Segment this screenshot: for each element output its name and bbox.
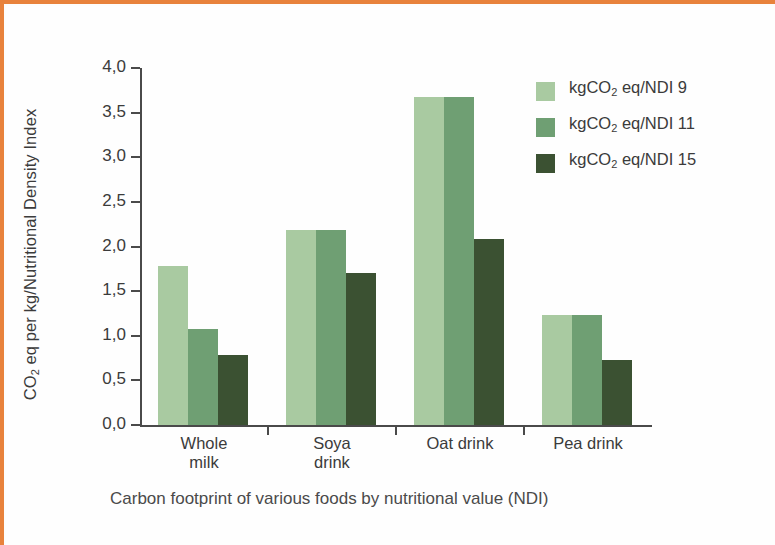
- y-axis-tick-label: 0,5: [78, 369, 126, 389]
- chart-caption: Carbon footprint of various foods by nut…: [110, 489, 548, 509]
- bar: [474, 239, 504, 425]
- category-label-line: Pea drink: [524, 434, 652, 453]
- y-axis-tick-mark: [131, 290, 140, 292]
- y-axis-tick-label: 0,0: [78, 414, 126, 434]
- bar-group: [286, 68, 376, 425]
- y-axis-tick-mark: [131, 424, 140, 426]
- y-axis-tick-mark: [131, 201, 140, 203]
- y-axis-tick-mark: [131, 246, 140, 248]
- legend-color-swatch: [536, 154, 555, 173]
- bar-group: [414, 68, 504, 425]
- category-label-line: Soya: [268, 434, 396, 453]
- legend-color-swatch: [536, 82, 555, 101]
- y-axis-tick-mark: [131, 156, 140, 158]
- plot-area: CO2 eq per kg/Nutritional Density Index …: [0, 0, 775, 545]
- bar: [602, 360, 632, 425]
- bar: [542, 315, 572, 425]
- y-axis-title: CO2 eq per kg/Nutritional Density Index: [21, 55, 40, 455]
- bar: [188, 329, 218, 425]
- legend-item-label: kgCO2 eq/NDI 15: [569, 150, 696, 169]
- category-label-line: milk: [140, 453, 268, 472]
- x-axis-category-label: Wholemilk: [140, 434, 268, 472]
- bar: [414, 97, 444, 425]
- y-axis-tick-mark: [131, 335, 140, 337]
- y-axis-title-subscript: 2: [29, 369, 41, 375]
- y-axis-tick-label: 3,5: [78, 102, 126, 122]
- y-axis-tick-mark: [131, 67, 140, 69]
- bar: [444, 97, 474, 425]
- y-axis-tick-mark: [131, 112, 140, 114]
- bar: [158, 266, 188, 425]
- category-label-line: Oat drink: [396, 434, 524, 453]
- y-axis-tick-mark: [131, 379, 140, 381]
- bar: [572, 315, 602, 425]
- y-axis-title-suffix: eq per kg/Nutritional Density Index: [21, 109, 39, 369]
- bar: [346, 273, 376, 425]
- legend-item-label: kgCO2 eq/NDI 9: [569, 78, 687, 97]
- legend-color-swatch: [536, 118, 555, 137]
- x-axis-category-label: Soyadrink: [268, 434, 396, 472]
- y-axis-tick-label: 2,0: [78, 236, 126, 256]
- y-axis-tick-label: 1,0: [78, 325, 126, 345]
- legend-item-label: kgCO2 eq/NDI 11: [569, 114, 695, 133]
- y-axis-tick-label: 3,0: [78, 146, 126, 166]
- category-label-line: drink: [268, 453, 396, 472]
- chart-page: CO2 eq per kg/Nutritional Density Index …: [0, 0, 775, 545]
- y-axis-tick-label: 2,5: [78, 191, 126, 211]
- y-axis-tick-label: 4,0: [78, 57, 126, 77]
- x-axis-category-label: Oat drink: [396, 434, 524, 453]
- bar-group: [158, 68, 248, 425]
- x-axis-category-label: Pea drink: [524, 434, 652, 453]
- bar: [218, 355, 248, 425]
- category-label-line: Whole: [140, 434, 268, 453]
- y-axis-tick-label: 1,5: [78, 280, 126, 300]
- y-axis-title-prefix: CO: [21, 375, 39, 400]
- bar: [316, 230, 346, 425]
- bar: [286, 230, 316, 425]
